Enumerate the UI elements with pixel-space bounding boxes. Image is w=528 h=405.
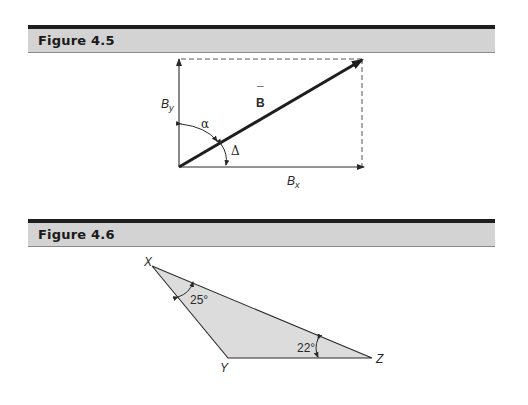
vertex-y-label: Y [220,361,229,375]
angle-x-label: 25° [190,293,208,307]
vector-b-accent: ¯ [256,85,264,99]
triangle-xyz [152,266,372,358]
vertex-z-label: Z [375,352,384,366]
figure-4-6-diagram: 25° 22° X Y Z [143,255,384,375]
alpha-label: α [201,117,209,131]
angle-z-label: 22° [297,341,315,355]
y-component-label: By [161,97,174,113]
vector-b-arrow [179,60,362,167]
x-component-label: Bx [287,174,300,190]
vertex-x-label: X [143,255,153,269]
alpha-angle-arc [181,124,217,141]
delta-angle-arc [221,144,226,165]
figure-4-5-diagram: B ¯ By Bx α Δ [161,59,364,190]
figures-canvas: B ¯ By Bx α Δ 25° 22° X Y Z [0,0,528,405]
delta-label: Δ [231,144,240,158]
